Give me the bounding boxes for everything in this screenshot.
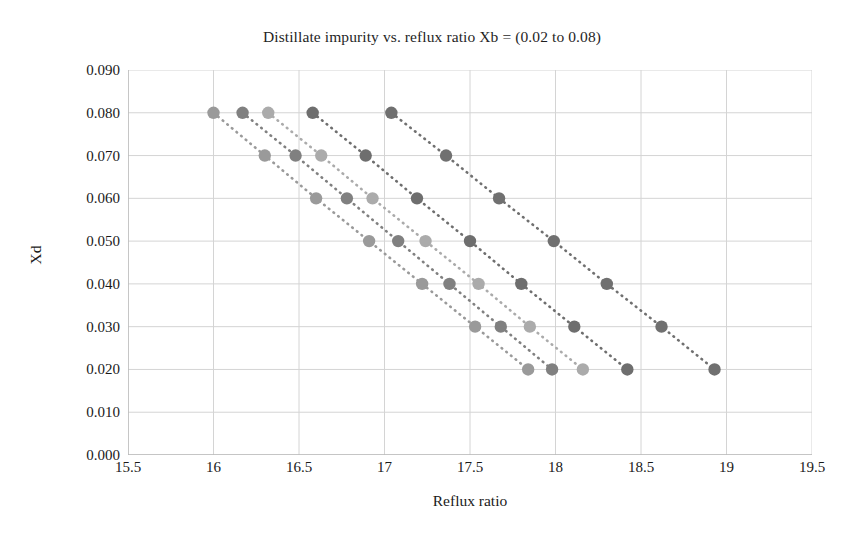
y-tick-label: 0.020 xyxy=(50,361,120,378)
data-point-marker xyxy=(546,363,558,375)
x-tick-label: 18 xyxy=(521,459,591,476)
x-tick-label: 15.5 xyxy=(93,459,163,476)
x-axis-title: Reflux ratio xyxy=(128,492,812,510)
chart-title: Distillate impurity vs. reflux ratio Xb … xyxy=(0,28,864,46)
data-point-marker xyxy=(341,192,353,204)
data-point-marker xyxy=(359,149,371,161)
chart-figure: Distillate impurity vs. reflux ratio Xb … xyxy=(0,0,864,545)
data-point-marker xyxy=(419,235,431,247)
x-tick-label: 17.5 xyxy=(435,459,505,476)
data-point-marker xyxy=(385,107,397,119)
y-tick-label: 0.090 xyxy=(50,62,120,79)
data-point-marker xyxy=(601,278,613,290)
y-tick-label: 0.040 xyxy=(50,275,120,292)
data-point-marker xyxy=(493,192,505,204)
data-point-marker xyxy=(522,363,534,375)
y-axis-tick-labels: 0.0000.0100.0200.0300.0400.0500.0600.070… xyxy=(48,70,120,455)
data-point-marker xyxy=(207,107,219,119)
data-point-marker xyxy=(495,320,507,332)
data-point-marker xyxy=(708,363,720,375)
x-tick-label: 18.5 xyxy=(606,459,676,476)
data-point-marker xyxy=(515,278,527,290)
data-point-marker xyxy=(469,320,481,332)
data-point-marker xyxy=(392,235,404,247)
y-axis-title: Xd xyxy=(27,215,45,295)
y-tick-label: 0.070 xyxy=(50,147,120,164)
data-point-marker xyxy=(363,235,375,247)
data-point-marker xyxy=(310,192,322,204)
x-tick-label: 19.5 xyxy=(777,459,847,476)
data-point-marker xyxy=(440,149,452,161)
x-axis-tick-labels: 15.51616.51717.51818.51919.5 xyxy=(128,459,812,489)
data-point-marker xyxy=(315,149,327,161)
data-point-marker xyxy=(524,320,536,332)
data-point-marker xyxy=(443,278,455,290)
data-point-marker xyxy=(306,107,318,119)
x-tick-label: 16 xyxy=(179,459,249,476)
grid-lines xyxy=(128,70,812,455)
x-tick-label: 16.5 xyxy=(264,459,334,476)
y-tick-label: 0.050 xyxy=(50,233,120,250)
data-point-marker xyxy=(577,363,589,375)
data-point-marker xyxy=(289,149,301,161)
data-point-marker xyxy=(416,278,428,290)
y-tick-label: 0.010 xyxy=(50,404,120,421)
y-tick-label: 0.060 xyxy=(50,190,120,207)
data-point-marker xyxy=(568,320,580,332)
data-point-marker xyxy=(621,363,633,375)
y-tick-label: 0.030 xyxy=(50,318,120,335)
data-point-marker xyxy=(472,278,484,290)
data-point-marker xyxy=(411,192,423,204)
x-tick-label: 19 xyxy=(692,459,762,476)
y-tick-label: 0.080 xyxy=(50,104,120,121)
data-point-marker xyxy=(262,107,274,119)
scatter-plot-svg xyxy=(128,70,812,455)
x-tick-label: 17 xyxy=(350,459,420,476)
data-point-marker xyxy=(655,320,667,332)
data-point-marker xyxy=(366,192,378,204)
data-point-marker xyxy=(236,107,248,119)
data-point-marker xyxy=(464,235,476,247)
data-point-marker xyxy=(259,149,271,161)
data-point-marker xyxy=(548,235,560,247)
plot-area xyxy=(128,70,812,455)
